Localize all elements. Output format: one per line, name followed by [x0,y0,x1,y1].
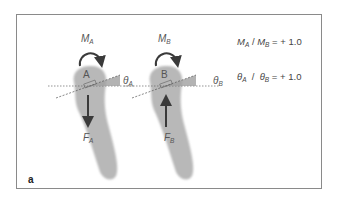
moment-ratio-equation: MA / MB = + 1.0 [237,37,302,49]
moment-label-b: MB [158,34,171,46]
moment-arrow-a-icon [80,53,101,66]
force-label-a: FA [83,133,93,145]
moment-arrow-b-icon [156,53,177,66]
force-label-b: FB [164,133,174,145]
moment-label-a: MA [81,34,94,46]
panel-label: a [28,175,34,185]
angle-label-b: θB [213,76,223,88]
diagram-canvas [0,0,337,204]
point-label-b: B [161,70,168,80]
point-label-a: A [83,70,90,80]
angle-ratio-equation: θA / θB = + 1.0 [237,72,301,84]
angle-label-a: θA [123,76,133,88]
